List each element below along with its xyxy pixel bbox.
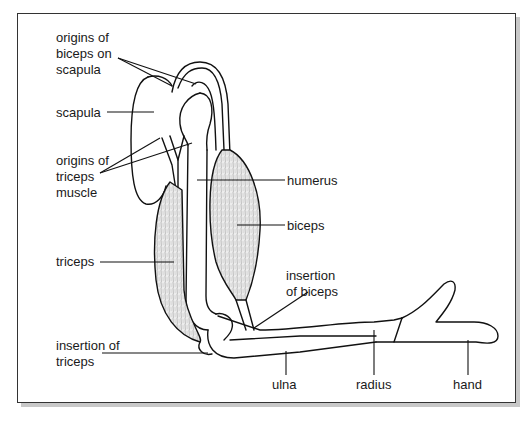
label-radius: radius	[356, 377, 391, 393]
biceps-tendon	[172, 62, 230, 155]
hand-shape	[394, 281, 498, 343]
humerus-shaft	[186, 145, 208, 330]
humerus-head	[180, 93, 200, 145]
label-ulna: ulna	[272, 377, 297, 393]
label-insertion-of-triceps: insertion of triceps	[56, 338, 120, 370]
pointer-origins-biceps-2	[118, 58, 196, 84]
ulna	[208, 330, 376, 358]
label-humerus: humerus	[287, 173, 338, 189]
scapula-shape	[131, 77, 166, 204]
pointer-origins-triceps-1	[100, 138, 160, 173]
label-hand: hand	[453, 377, 482, 393]
label-biceps: biceps	[287, 218, 325, 234]
label-triceps: triceps	[56, 254, 94, 270]
label-scapula: scapula	[56, 105, 101, 121]
label-origins-of-biceps: origins of biceps on scapula	[56, 30, 112, 78]
label-insertion-of-biceps: insertion of biceps	[286, 268, 338, 300]
pointer-origins-biceps-1	[118, 58, 172, 86]
label-origins-of-triceps: origins of triceps muscle	[56, 153, 109, 201]
